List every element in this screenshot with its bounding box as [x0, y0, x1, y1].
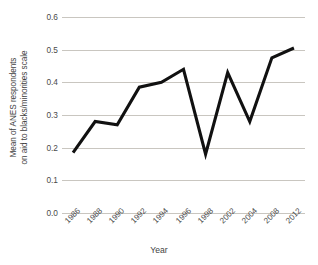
- y-axis-tick-label: 0.4: [36, 77, 58, 87]
- line-series-path: [73, 48, 294, 154]
- y-axis-tick-label: 0.0: [36, 208, 58, 218]
- y-axis-title: Mean of ANES respondents on aid to black…: [2, 0, 38, 215]
- line-series-svg: [62, 17, 305, 213]
- y-axis-tick-label: 0.3: [36, 110, 58, 120]
- plot-area: [62, 17, 305, 213]
- y-axis-tick-label: 0.5: [36, 45, 58, 55]
- x-axis-title: Year: [0, 245, 318, 255]
- y-axis-title-line2: on aid to blacks/minorities scale: [20, 51, 31, 165]
- chart-container: Mean of ANES respondents on aid to black…: [0, 0, 318, 265]
- y-axis-tick-label: 0.2: [36, 143, 58, 153]
- y-axis-title-line1: Mean of ANES respondents: [10, 51, 21, 165]
- y-axis-tick-label: 0.1: [36, 175, 58, 185]
- y-axis-tick-label: 0.6: [36, 12, 58, 22]
